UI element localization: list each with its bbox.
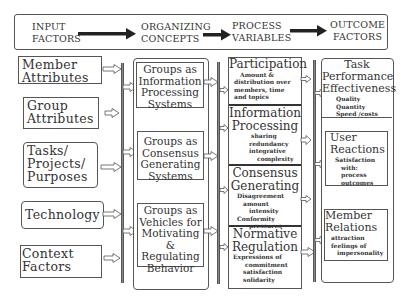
process-details: Disagreement amount intensity Conformity… bbox=[229, 192, 301, 230]
detail-line: outcomes bbox=[341, 179, 387, 187]
detail-line: redundancy bbox=[249, 140, 301, 148]
outcome-title: User Reactions bbox=[326, 132, 384, 156]
input-technology: Technology bbox=[21, 201, 104, 229]
stage-label: PROCESS bbox=[232, 20, 291, 32]
organizing-information-processing: Groups as Information Processing Systems bbox=[136, 62, 204, 108]
detail-line: Disagreement bbox=[237, 192, 301, 200]
process-title: Participation bbox=[229, 58, 301, 71]
hollow-arrow-icon bbox=[102, 209, 122, 219]
detail-line: attraction bbox=[331, 234, 387, 242]
stage-organizing-concepts: ORGANIZING CONCEPTS bbox=[141, 21, 211, 45]
detail-line: members, time bbox=[234, 86, 301, 94]
detail-line: feelings of bbox=[331, 242, 387, 250]
input-member-attributes: Member Attributes bbox=[18, 56, 102, 84]
hollow-arrow-icon bbox=[100, 162, 122, 172]
process-title: Information Processing bbox=[229, 107, 301, 132]
input-label: Context Factors bbox=[21, 246, 81, 274]
process-normative-regulation: Normative Regulation Expressions of comm… bbox=[229, 228, 301, 283]
process-participation: Participation Amount & distribution over… bbox=[229, 58, 301, 101]
organizing-label: Groups as Information Processing Systems bbox=[137, 63, 203, 110]
detail-line: complexity bbox=[257, 155, 301, 163]
detail-line: amount bbox=[243, 200, 301, 208]
outcome-task-underline bbox=[322, 117, 392, 118]
input-label: Tasks/ Projects/ Purposes bbox=[24, 143, 92, 184]
detail-line: Conformity bbox=[237, 215, 301, 223]
outcome-title: Member Relations bbox=[325, 210, 385, 234]
detail-line: integrative bbox=[249, 147, 301, 155]
arrow-right-icon bbox=[203, 29, 233, 41]
outcome-task-performance: Task Performance Effectiveness Quality Q… bbox=[322, 59, 392, 119]
stage-outcome-factors: OUTCOME FACTORS bbox=[330, 19, 385, 43]
process-information-processing: Information Processing sharing redundanc… bbox=[229, 107, 301, 162]
process-details: Amount & distribution over members, time… bbox=[229, 71, 301, 101]
process-details: Expressions of commitment satisfaction s… bbox=[229, 253, 301, 283]
detail-line: process bbox=[341, 171, 387, 179]
detail-line: Satisfaction bbox=[335, 156, 387, 164]
stage-label: FACTORS bbox=[32, 33, 81, 45]
outcome-member-relations: Member Relations attraction feelings of … bbox=[324, 209, 388, 261]
stage-label: OUTCOME bbox=[330, 19, 385, 31]
input-label: Technology bbox=[22, 202, 103, 222]
arrow-right-icon bbox=[78, 28, 138, 40]
detail-line: with: bbox=[341, 164, 387, 172]
input-label: Group Attributes bbox=[24, 98, 100, 126]
organizing-vehicles-motivating: Groups as Vehicles for Motivating & Regu… bbox=[137, 203, 204, 267]
detail-line: Expressions of bbox=[233, 253, 301, 261]
stage-label: INPUT bbox=[32, 21, 81, 33]
detail-line: sharing bbox=[251, 132, 301, 140]
input-group-attributes: Group Attributes bbox=[23, 97, 99, 129]
outcome-details: attraction feelings of impersonality bbox=[325, 234, 387, 257]
hollow-arrow-icon bbox=[300, 195, 312, 203]
hollow-arrow-icon bbox=[102, 64, 122, 74]
detail-line: commitment bbox=[245, 261, 301, 269]
organizing-label: Groups as Consensus Generating Systems bbox=[138, 132, 203, 182]
input-context-factors: Context Factors bbox=[20, 245, 102, 278]
outcome-title: Task Performance Effectiveness bbox=[322, 59, 392, 95]
organizing-label: Groups as Vehicles for Motivating & Regu… bbox=[138, 204, 203, 274]
detail-line: intensity bbox=[249, 207, 301, 215]
process-title: Normative Regulation bbox=[229, 228, 301, 253]
hollow-arrow-icon bbox=[104, 108, 120, 118]
arrow-right-icon bbox=[290, 25, 330, 37]
input-tasks-projects-purposes: Tasks/ Projects/ Purposes bbox=[23, 142, 98, 188]
detail-line: impersonality bbox=[337, 249, 387, 257]
hollow-arrow-icon bbox=[103, 253, 121, 263]
stage-label: CONCEPTS bbox=[141, 33, 211, 45]
process-consensus-generating: Consensus Generating Disagreement amount… bbox=[229, 167, 301, 230]
hollow-arrow-icon bbox=[300, 75, 312, 83]
outcome-details: Quality Quantity Speed /costs bbox=[322, 95, 392, 118]
outcome-user-reactions: User Reactions Satisfaction with: proces… bbox=[325, 131, 388, 186]
stage-label: VARIABLES bbox=[232, 32, 291, 44]
process-details: sharing redundancy integrative complexit… bbox=[229, 132, 301, 162]
stage-input-factors: INPUT FACTORS bbox=[32, 21, 81, 45]
organizing-consensus-generating: Groups as Consensus Generating Systems bbox=[137, 131, 204, 180]
detail-line: satisfaction bbox=[243, 268, 301, 276]
stage-process-variables: PROCESS VARIABLES bbox=[232, 20, 291, 44]
input-label: Member Attributes bbox=[19, 57, 95, 85]
detail-line: Quality bbox=[336, 95, 392, 103]
process-title: Consensus Generating bbox=[229, 167, 301, 192]
detail-line: distribution over bbox=[234, 78, 301, 86]
stage-label: FACTORS bbox=[330, 31, 385, 43]
detail-line: and topics bbox=[234, 93, 301, 101]
detail-line: solidarity bbox=[243, 276, 301, 284]
connector-bar bbox=[121, 63, 124, 283]
detail-line: Amount & bbox=[240, 71, 301, 79]
stage-label: ORGANIZING bbox=[141, 21, 211, 33]
outcome-details: Satisfaction with: process outcomes bbox=[326, 156, 387, 186]
detail-line: Quantity bbox=[336, 103, 392, 111]
hollow-arrow-icon bbox=[300, 135, 312, 145]
